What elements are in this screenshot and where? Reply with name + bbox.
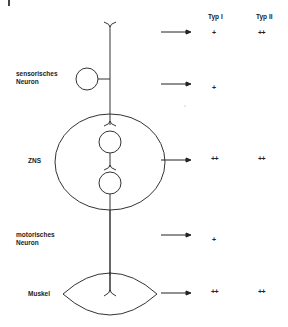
synapse-fork-top <box>104 22 116 27</box>
value-cns-type2: ++ <box>258 155 265 162</box>
label-cns: ZNS <box>28 157 41 165</box>
label-motor-neuron: motorisches Neuron <box>16 231 55 247</box>
value-receptor-type1: + <box>212 29 216 36</box>
value-motor-type1: + <box>212 236 216 243</box>
label-sensory-neuron: sensorisches Neuron <box>16 70 58 86</box>
value-sensory-type1: + <box>212 84 216 91</box>
label-muscle: Muskel <box>28 290 50 298</box>
value-muscle-type1: ++ <box>211 288 218 295</box>
arrow-receptor <box>161 30 191 34</box>
arrow-motor-neuron <box>161 233 191 237</box>
neuron-pathway-diagram <box>0 0 288 327</box>
value-cns-type1: ++ <box>211 155 218 162</box>
arrow-muscle <box>161 291 191 295</box>
column-header-type2: Typ II <box>256 13 273 20</box>
value-muscle-type2: ++ <box>258 288 265 295</box>
cns-interneuron-2 <box>99 172 121 194</box>
column-header-type1: Typ I <box>208 13 223 20</box>
value-receptor-type2: ++ <box>258 29 265 36</box>
synapse-fork-muscle <box>104 290 116 296</box>
arrow-cns <box>161 158 191 162</box>
arrow-sensory-neuron <box>161 82 191 86</box>
cns-interneuron-1 <box>99 131 121 153</box>
sensory-neuron-soma <box>76 68 98 90</box>
